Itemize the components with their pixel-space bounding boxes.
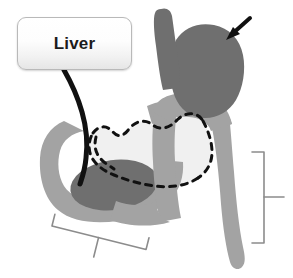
esophagus [154,8,180,90]
gastric-pouch [170,24,244,118]
pointer-arrow [226,18,250,40]
right-bracket [252,152,284,243]
liver-callout-box[interactable]: Liver [17,17,132,70]
liver-callout-label: Liver [54,35,96,52]
anatomy-diagram: Liver [0,0,293,278]
